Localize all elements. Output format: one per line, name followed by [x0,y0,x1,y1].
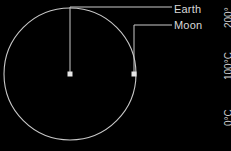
temperature-label-100: 100°C [223,52,231,80]
earth-leader-line [70,7,172,74]
earth-callout-label: Earth [174,3,201,15]
diagram-canvas: Earth Moon 200° 100°C 0°C [0,0,231,151]
moon-marker-dot [132,72,137,77]
moon-callout-label: Moon [174,19,202,31]
earth-marker-dot [68,72,73,77]
temperature-label-0: 0°C [223,109,231,126]
moon-leader-line [134,25,172,74]
temperature-label-200: 200° [223,7,231,28]
